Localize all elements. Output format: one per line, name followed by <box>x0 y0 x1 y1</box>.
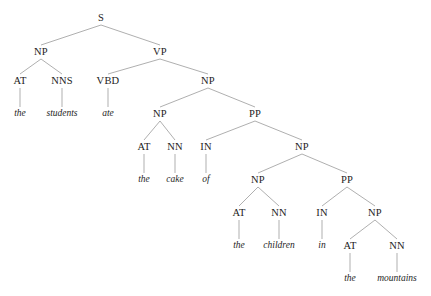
tree-nonterminal-PP: PP <box>341 175 353 186</box>
tree-terminal-cake: cake <box>166 175 183 185</box>
tree-terminal-mountains: mountains <box>377 274 417 284</box>
tree-edge <box>208 88 255 107</box>
tree-nonterminal-AT: AT <box>343 241 356 252</box>
tree-edge <box>375 220 397 239</box>
tree-terminal-in: in <box>318 241 325 251</box>
tree-nonterminal-NP: NP <box>34 47 48 58</box>
tree-edge <box>347 187 375 206</box>
tree-edge <box>20 59 41 74</box>
tree-nonterminal-NP: NP <box>201 76 215 87</box>
tree-edge <box>206 121 255 140</box>
tree-terminal-ate: ate <box>102 109 114 119</box>
tree-nonterminal-NP: NP <box>251 175 265 186</box>
tree-nonterminal-NN: NN <box>389 241 405 252</box>
tree-terminal-the: the <box>344 274 356 284</box>
tree-nonterminal-NP: NP <box>295 142 309 153</box>
tree-nonterminal-NN: NN <box>271 208 287 219</box>
tree-nonterminal-IN: IN <box>200 142 211 153</box>
tree-edge <box>255 121 302 140</box>
tree-terminal-the: the <box>138 175 150 185</box>
tree-edge <box>41 59 62 74</box>
tree-nonterminal-AT: AT <box>232 208 245 219</box>
tree-nonterminal-AT: AT <box>13 76 26 87</box>
tree-nonterminal-PP: PP <box>249 109 261 120</box>
tree-edge <box>160 88 208 107</box>
tree-edge <box>258 154 302 173</box>
tree-edge <box>101 25 160 45</box>
tree-edge <box>350 220 375 239</box>
parse-tree-figure: SNPVPATNNSVBDNPthestudentsateNPPPATNNINN… <box>0 0 431 296</box>
tree-edge <box>41 25 101 45</box>
tree-nonterminal-NP: NP <box>368 208 382 219</box>
tree-terminal-children: children <box>263 241 294 251</box>
tree-nonterminal-NP: NP <box>153 109 167 120</box>
tree-edge <box>302 154 347 173</box>
tree-edge <box>322 187 347 206</box>
tree-edge <box>239 187 258 206</box>
tree-edge <box>160 121 175 140</box>
tree-nonterminal-S: S <box>98 13 104 24</box>
tree-edge <box>144 121 160 140</box>
tree-edge <box>258 187 279 206</box>
tree-terminal-students: students <box>46 109 77 119</box>
tree-nonterminal-IN: IN <box>316 208 327 219</box>
tree-nonterminal-VP: VP <box>153 47 167 58</box>
tree-terminal-the: the <box>14 109 26 119</box>
tree-edge <box>108 59 160 74</box>
tree-nonterminal-VBD: VBD <box>97 76 120 87</box>
tree-terminal-of: of <box>202 175 209 185</box>
tree-nonterminal-NN: NN <box>167 142 183 153</box>
tree-edge-layer <box>0 0 431 296</box>
tree-nonterminal-NNS: NNS <box>51 76 73 87</box>
tree-nonterminal-AT: AT <box>137 142 150 153</box>
tree-edge <box>160 59 208 74</box>
tree-terminal-the: the <box>233 241 245 251</box>
